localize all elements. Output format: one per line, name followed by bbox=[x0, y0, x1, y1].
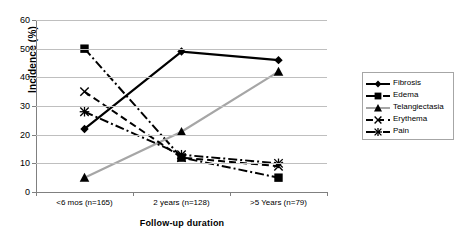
data-point-marker bbox=[177, 150, 187, 160]
y-axis-tick-label: 10 bbox=[0, 159, 30, 168]
chart-container: Incidence (%) 0102030405060<6 mos (n=165… bbox=[0, 0, 457, 236]
legend-label: Edema bbox=[391, 90, 418, 99]
legend-item-telangiectasia: Telangiectasia bbox=[365, 100, 451, 112]
x-axis-tick bbox=[230, 192, 231, 196]
series-pain bbox=[80, 107, 284, 168]
legend-swatch-square-icon bbox=[365, 88, 391, 100]
data-point-marker bbox=[80, 173, 90, 182]
gridline bbox=[36, 77, 327, 78]
x-axis-tick bbox=[133, 192, 134, 196]
legend-label: Erythema bbox=[391, 114, 427, 123]
y-axis-tick-label: 20 bbox=[0, 131, 30, 140]
y-axis-tick-label: 30 bbox=[0, 102, 30, 111]
legend-item-fibrosis: Fibrosis bbox=[365, 76, 451, 88]
data-point-marker bbox=[274, 67, 284, 76]
y-axis-tick bbox=[32, 49, 36, 50]
legend-swatch-asterisk-icon bbox=[365, 124, 391, 136]
gridline bbox=[36, 49, 327, 50]
x-axis-title: Follow-up duration bbox=[36, 218, 328, 228]
legend-swatch-diamond-icon bbox=[365, 76, 391, 88]
legend-swatch-triangle-icon bbox=[365, 100, 391, 112]
y-axis-tick bbox=[32, 163, 36, 164]
gridline bbox=[36, 135, 327, 136]
data-point-marker bbox=[80, 107, 90, 117]
gridline bbox=[36, 20, 327, 21]
data-point-marker bbox=[80, 87, 88, 95]
x-axis-tick-label: 2 years (n=128) bbox=[153, 198, 209, 207]
y-axis-tick-label: 0 bbox=[0, 188, 30, 197]
y-axis-tick bbox=[32, 135, 36, 136]
x-axis-line bbox=[36, 192, 327, 193]
x-axis-tick bbox=[327, 192, 328, 196]
legend-swatch-x-icon bbox=[365, 112, 391, 124]
legend-label: Fibrosis bbox=[391, 78, 421, 87]
x-axis-tick-label: >5 Years (n=79) bbox=[250, 198, 307, 207]
gridline bbox=[36, 163, 327, 164]
y-axis-tick-label: 50 bbox=[0, 45, 30, 54]
plot-area: 0102030405060<6 mos (n=165)2 years (n=12… bbox=[36, 20, 327, 192]
y-axis-tick bbox=[32, 77, 36, 78]
legend-item-erythema: Erythema bbox=[365, 112, 451, 124]
x-axis-tick bbox=[36, 192, 37, 196]
data-point-marker bbox=[274, 173, 282, 181]
x-axis-tick-label: <6 mos (n=165) bbox=[56, 198, 112, 207]
gridline bbox=[36, 106, 327, 107]
series-fibrosis bbox=[80, 47, 282, 133]
y-axis-tick-label: 40 bbox=[0, 73, 30, 82]
data-point-marker bbox=[274, 56, 282, 64]
y-axis-tick-label: 60 bbox=[0, 16, 30, 25]
y-axis-tick bbox=[32, 106, 36, 107]
legend-item-edema: Edema bbox=[365, 88, 451, 100]
y-axis-tick bbox=[32, 20, 36, 21]
legend-item-pain: Pain bbox=[365, 124, 451, 136]
legend-label: Pain bbox=[391, 126, 409, 135]
chart-legend: FibrosisEdemaTelangiectasiaErythemaPain bbox=[362, 72, 454, 140]
legend-label: Telangiectasia bbox=[391, 102, 444, 111]
